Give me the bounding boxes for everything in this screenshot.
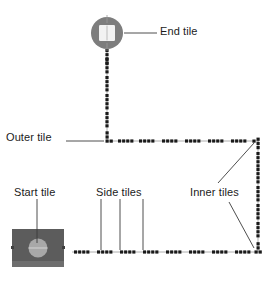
leader-inner-tile-top — [218, 143, 254, 183]
label-side-tiles: Side tiles — [96, 186, 142, 198]
label-start-tile: Start tile — [14, 186, 55, 198]
start-tile — [11, 229, 65, 267]
end-tile — [91, 15, 123, 51]
label-outer-tile: Outer tile — [6, 131, 52, 143]
label-inner-tiles: Inner tiles — [190, 186, 239, 198]
track-segment-right — [256, 152, 259, 237]
track-rails — [72, 50, 259, 252]
tile-path-diagram: End tile Outer tile Start tile Side tile… — [0, 0, 280, 283]
leader-inner-tile-bottom — [229, 202, 254, 248]
label-end-tile: End tile — [160, 25, 198, 37]
